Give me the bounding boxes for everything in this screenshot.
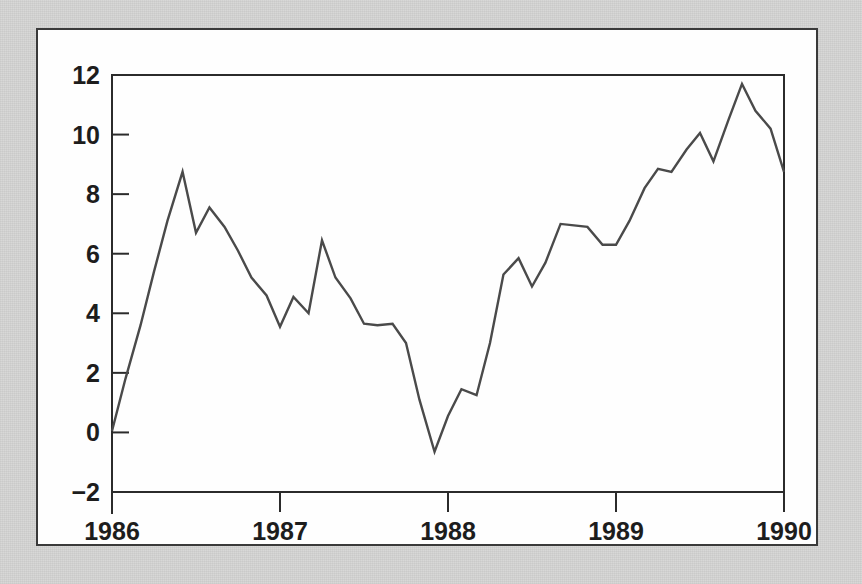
x-axis-ticks	[112, 492, 784, 512]
y-axis-tick-labels: −2024681012	[71, 61, 100, 506]
x-tick-label: 1986	[84, 517, 140, 544]
y-tick-label: −2	[71, 478, 100, 506]
x-tick-label: 1987	[252, 517, 308, 544]
plot-frame	[112, 75, 784, 514]
y-tick-label: 6	[86, 240, 100, 268]
y-tick-label: 0	[86, 418, 100, 446]
y-tick-label: 10	[72, 121, 100, 149]
x-tick-label: 1989	[588, 517, 644, 544]
line-chart: −2024681012 19861987198819891990	[38, 30, 816, 544]
y-tick-label: 4	[86, 299, 100, 327]
x-axis-tick-labels: 19861987198819891990	[84, 517, 812, 544]
y-axis-ticks	[112, 75, 129, 492]
x-tick-label: 1988	[420, 517, 476, 544]
y-tick-label: 2	[86, 359, 100, 387]
y-tick-label: 12	[72, 61, 100, 89]
x-tick-label: 1990	[756, 517, 812, 544]
y-tick-label: 8	[86, 180, 100, 208]
data-series-line	[112, 84, 784, 452]
figure-panel: −2024681012 19861987198819891990	[36, 28, 818, 546]
scanned-page: −2024681012 19861987198819891990	[0, 0, 862, 584]
